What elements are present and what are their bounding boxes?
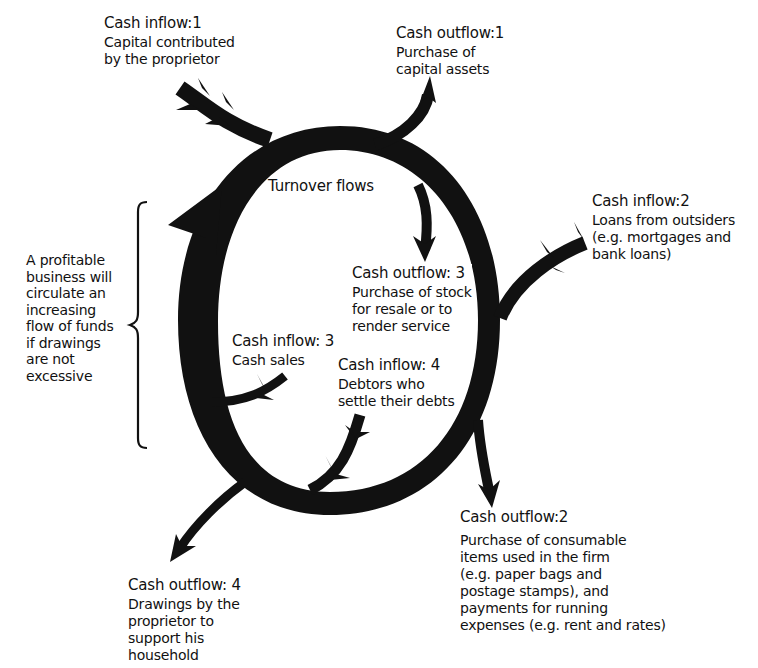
outflow-2-line: (e.g. paper bags and: [460, 566, 666, 583]
outflow-2-heading: Cash outflow:2: [460, 508, 666, 527]
outflow-3-line: for resale or to: [352, 301, 472, 318]
inflow-1-heading: Cash inflow:1: [104, 14, 235, 33]
outflow-3-line: Purchase of stock: [352, 284, 472, 301]
outflow-4-arrow: [170, 482, 245, 562]
inflow-4-heading: Cash inflow: 4: [338, 356, 454, 375]
brace: [130, 202, 147, 448]
outflow-2-label: Cash outflow:2 Purchase of consumable it…: [460, 508, 666, 634]
outflow-3-line: render service: [352, 318, 472, 335]
outflow-3-arrow: [413, 185, 436, 262]
side-note-line: excessive: [26, 368, 113, 385]
inflow-4-line: Debtors who: [338, 376, 454, 393]
side-note-line: A profitable: [26, 252, 113, 269]
inflow-2-line: Loans from outsiders: [592, 212, 735, 229]
inflow-2-line: bank loans): [592, 246, 735, 263]
inflow-3-line: Cash sales: [232, 352, 334, 369]
outflow-4-label: Cash outflow: 4 Drawings by the propriet…: [128, 576, 241, 664]
outflow-4-line: Drawings by the: [128, 596, 241, 613]
side-note: A profitable business will circulate an …: [26, 252, 113, 384]
outflow-1-label: Cash outflow:1 Purchase of capital asset…: [396, 24, 504, 78]
inflow-3-label: Cash inflow: 3 Cash sales: [232, 332, 334, 369]
outflow-2-line: Purchase of consumable: [460, 532, 666, 549]
outflow-3-heading: Cash outflow: 3: [352, 264, 472, 283]
outflow-1-line: capital assets: [396, 61, 504, 78]
inflow-2-line: (e.g. mortgages and: [592, 229, 735, 246]
inflow-4-arrow: [310, 415, 370, 490]
inflow-1-arrow: [176, 78, 270, 140]
inflow-2-heading: Cash inflow:2: [592, 192, 735, 211]
outflow-4-heading: Cash outflow: 4: [128, 576, 241, 595]
outflow-2-line: expenses (e.g. rent and rates): [460, 617, 666, 634]
inflow-1-line: Capital contributed: [104, 34, 235, 51]
inflow-4-line: settle their debts: [338, 393, 454, 410]
inflow-3-heading: Cash inflow: 3: [232, 332, 334, 351]
side-note-line: circulate an: [26, 285, 113, 302]
outflow-4-line: household: [128, 647, 241, 664]
outflow-2-line: postage stamps), and: [460, 583, 666, 600]
outflow-4-line: proprietor to: [128, 613, 241, 630]
outflow-2-arrow: [478, 420, 500, 508]
outflow-1-heading: Cash outflow:1: [396, 24, 504, 43]
inflow-4-label: Cash inflow: 4 Debtors who settle their …: [338, 356, 454, 410]
outflow-1-line: Purchase of: [396, 44, 504, 61]
outflow-2-line: items used in the firm: [460, 549, 666, 566]
side-note-line: if drawings: [26, 335, 113, 352]
outflow-4-line: support his: [128, 630, 241, 647]
inflow-1-label: Cash inflow:1 Capital contributed by the…: [104, 14, 235, 68]
side-note-line: are not: [26, 351, 113, 368]
turnover-flows-label: Turnover flows: [268, 178, 374, 195]
inflow-2-arrow: [500, 222, 600, 318]
outflow-2-line: payments for running: [460, 600, 666, 617]
outflow-3-label: Cash outflow: 3 Purchase of stock for re…: [352, 264, 472, 335]
side-note-line: increasing: [26, 302, 113, 319]
inflow-2-label: Cash inflow:2 Loans from outsiders (e.g.…: [592, 192, 735, 263]
inflow-1-line: by the proprietor: [104, 51, 235, 68]
side-note-line: business will: [26, 269, 113, 286]
side-note-line: flow of funds: [26, 318, 113, 335]
